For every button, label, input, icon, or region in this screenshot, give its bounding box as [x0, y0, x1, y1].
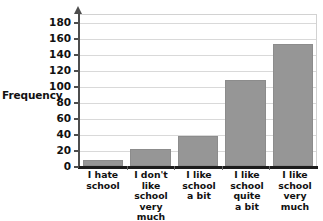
bar	[178, 136, 218, 166]
x-axis-category-label-line: school	[79, 181, 127, 192]
y-axis-tick-label: 20	[43, 145, 71, 156]
x-axis-category-label-line: a bit	[175, 191, 223, 202]
bar-chart-figure: Frequency 020406080100120140160180 I hat…	[0, 0, 323, 221]
x-axis-tick-mark	[127, 166, 128, 170]
x-axis-category-label: I don'tlikeschoolvery much	[127, 170, 175, 221]
x-axis-category-label-line: much	[271, 202, 319, 213]
y-axis-tick-mark	[74, 54, 79, 56]
y-axis-tick-mark	[74, 118, 79, 120]
x-axis-category-label-line: I like	[223, 170, 271, 181]
y-axis-tick-label: 80	[43, 97, 71, 108]
y-axis-tick-label: 120	[43, 65, 71, 76]
x-axis-tick-mark	[174, 166, 175, 170]
y-axis-tick-mark	[74, 70, 79, 72]
x-axis-category-label-line: I don't	[127, 170, 175, 181]
x-axis-category-label: I likeschoola bit	[175, 170, 223, 221]
x-axis-category-label-line: I like	[271, 170, 319, 181]
y-axis-tick-mark	[74, 22, 79, 24]
y-axis-tick-label: 180	[43, 17, 71, 28]
x-axis-tick-mark	[222, 166, 223, 170]
y-axis-tick-mark	[74, 150, 79, 152]
bars-layer	[79, 14, 317, 166]
y-axis-tick-label: 0	[43, 161, 71, 172]
y-axis-tick-labels: 020406080100120140160180	[43, 0, 71, 221]
x-axis-category-label: I hateschool	[79, 170, 127, 221]
y-axis-tick-label: 160	[43, 33, 71, 44]
y-axis-tick-mark	[74, 102, 79, 104]
y-axis-tick-mark	[74, 86, 79, 88]
x-axis-category-label-line: I hate	[79, 170, 127, 181]
bar	[273, 44, 313, 166]
y-axis-tick-label: 40	[43, 129, 71, 140]
x-axis-category-labels: I hateschoolI don'tlikeschoolvery muchI …	[79, 170, 319, 221]
x-axis-tick-mark	[269, 166, 270, 170]
y-axis-tick-mark	[74, 166, 79, 168]
y-axis-tick-label: 60	[43, 113, 71, 124]
chart-title	[95, 0, 305, 3]
x-axis-category-label-line: very much	[127, 202, 175, 221]
x-axis-category-label-line: I like	[175, 170, 223, 181]
y-axis-tick-mark	[74, 38, 79, 40]
y-axis-tick-label: 140	[43, 49, 71, 60]
x-axis-category-label-line: a bit	[223, 202, 271, 213]
x-axis-category-label: I likeschoolverymuch	[271, 170, 319, 221]
bar	[130, 149, 170, 166]
bar	[225, 80, 265, 166]
y-axis-tick-label: 100	[43, 81, 71, 92]
x-axis-category-label: I likeschoolquitea bit	[223, 170, 271, 221]
y-axis-tick-mark	[74, 134, 79, 136]
